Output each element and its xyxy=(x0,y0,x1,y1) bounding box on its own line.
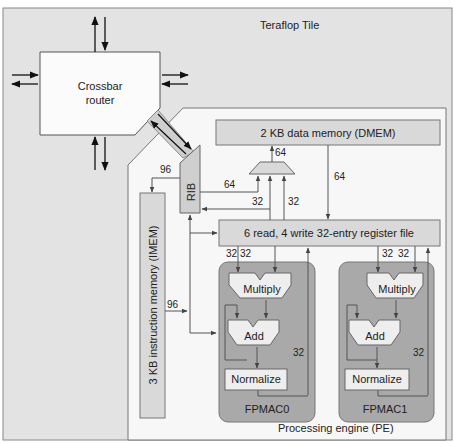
teraflop-tile-diagram: Teraflop Tile Processing engine (PE) Cro… xyxy=(0,0,455,443)
router-label-2: router xyxy=(86,94,115,106)
dmem-label: 2 KB data memory (DMEM) xyxy=(260,127,395,139)
svg-text:32: 32 xyxy=(398,248,410,259)
fpmac0-multiply: Multiply xyxy=(243,283,281,295)
fpmac1-label: FPMAC1 xyxy=(363,403,408,415)
width-mux-dmem: 64 xyxy=(275,147,287,158)
width-imem-fpmac: 96 xyxy=(167,299,179,310)
rib-label: RIB xyxy=(185,183,197,201)
svg-text:32: 32 xyxy=(382,248,394,259)
width-rib-mux: 64 xyxy=(224,179,236,190)
fpmac0-label: FPMAC0 xyxy=(245,403,290,415)
fpmac1-normalize: Normalize xyxy=(352,373,402,385)
svg-text:32: 32 xyxy=(240,248,252,259)
width-reg-mux-a: 32 xyxy=(252,196,264,207)
pe-label: Processing engine (PE) xyxy=(278,422,394,434)
width-rib-imem: 96 xyxy=(160,164,172,175)
svg-text:32: 32 xyxy=(413,347,425,358)
tile-title: Teraflop Tile xyxy=(260,19,319,31)
fpmac1: Multiply Add Normalize 32 32 32 FPMAC1 xyxy=(339,246,434,422)
fpmac1-multiply: Multiply xyxy=(378,283,416,295)
fpmac0: Multiply Add Normalize 32 32 32 FPMAC0 xyxy=(219,246,315,422)
width-dmem-regfile: 64 xyxy=(334,171,346,182)
svg-text:32: 32 xyxy=(293,347,305,358)
fpmac0-normalize: Normalize xyxy=(231,373,281,385)
router-label-1: Crossbar xyxy=(78,80,123,92)
register-file-label: 6 read, 4 write 32-entry register file xyxy=(244,227,414,239)
imem-label: 3 KB instruction memory (IMEM) xyxy=(147,226,159,385)
svg-text:32: 32 xyxy=(226,248,238,259)
fpmac1-add: Add xyxy=(365,330,385,342)
fpmac0-add: Add xyxy=(244,330,264,342)
width-reg-mux-b: 32 xyxy=(288,196,300,207)
